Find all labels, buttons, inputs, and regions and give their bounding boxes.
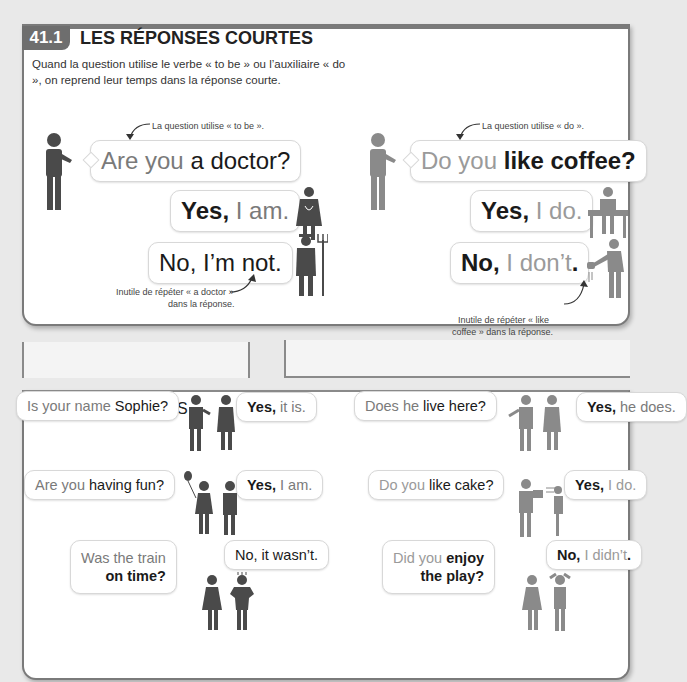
- note-no-repeat-coffee-2: coffee » dans la réponse.: [452, 326, 553, 338]
- person-icon: [40, 132, 76, 212]
- note-no-repeat-coffee-1: Inutile de répéter « like: [458, 314, 549, 326]
- question-bubble-like-cake: Do you like cake?: [368, 470, 504, 500]
- question-bubble-enjoy-play: Did you enjoythe play?: [382, 540, 495, 594]
- question-bubble-to-be: Are you a doctor?: [90, 140, 301, 182]
- woman-and-man-disappointed-icon: [520, 572, 576, 634]
- section-number-badge: 41.1: [22, 26, 70, 50]
- person-drinking-at-table-icon: [586, 186, 630, 240]
- man-pointing-and-woman-icon: [508, 394, 568, 454]
- note-to-be: La question utilise « to be ».: [152, 120, 264, 132]
- answer-bubble-i-didnt: No, I didn’t.: [546, 540, 642, 570]
- question-bubble-live-here: Does he live here?: [354, 391, 497, 421]
- question-bubble-name: Is your name Sophie?: [16, 391, 179, 421]
- question-bubble-do: Do you like coffee?: [410, 140, 647, 182]
- arrow-icon: [228, 272, 258, 296]
- other-examples-panel: AUTRES EXEMPLES Is your name Sophie? Yes…: [22, 390, 630, 680]
- note-no-repeat-doctor-1: Inutile de répéter « a doctor »: [116, 286, 234, 298]
- answer-bubble-he-does: Yes, he does.: [576, 392, 687, 422]
- section-title: LES RÉPONSES COURTES: [80, 28, 313, 49]
- connector-strip-right: [284, 340, 630, 378]
- note-do: La question utilise « do ».: [482, 120, 584, 132]
- farmer-with-pitchfork-icon: [294, 232, 328, 298]
- answer-bubble-yes-i-am: Yes, I am.: [170, 190, 300, 232]
- answer-bubble-yes-i-do: Yes, I do.: [470, 190, 593, 232]
- short-answers-panel: 41.1 LES RÉPONSES COURTES Quand la quest…: [22, 24, 630, 326]
- arrow-icon: [562, 278, 592, 308]
- person-icon: [364, 132, 400, 212]
- man-and-woman-talking-icon: [184, 394, 244, 454]
- answer-bubble-no-im-not: No, I’m not.: [148, 242, 293, 284]
- question-bubble-having-fun: Are you having fun?: [24, 470, 175, 500]
- answer-bubble-it-is: Yes, it is.: [236, 392, 317, 422]
- girl-with-balloon-and-boy-icon: [182, 470, 246, 540]
- two-women-annoyed-icon: [200, 572, 256, 634]
- people-with-cake-icon: [512, 476, 568, 540]
- arrow-icon: [124, 120, 154, 142]
- question-bubble-train: Was the trainon time?: [70, 540, 177, 594]
- arrow-icon: [454, 120, 484, 142]
- answer-bubble-i-do: Yes, I do.: [564, 470, 647, 500]
- intro-text: Quand la question utilise le verbe « to …: [32, 56, 352, 88]
- answer-bubble-i-am: Yes, I am.: [236, 470, 323, 500]
- note-no-repeat-doctor-2: dans la réponse.: [168, 298, 235, 310]
- connector-strip-left: [22, 342, 250, 378]
- answer-bubble-it-wasnt: No, it wasn’t.: [224, 540, 329, 570]
